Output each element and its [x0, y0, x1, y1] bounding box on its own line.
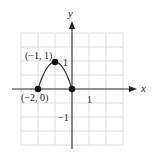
graph-figure: x y 1 1 −1 (−1, 1) (−2, 0): [0, 0, 152, 156]
point-label-neg1-1: (−1, 1): [25, 50, 52, 62]
point-label-neg2-0: (−2, 0): [21, 92, 48, 104]
x-tick-label-1: 1: [87, 94, 92, 105]
x-axis-label: x: [140, 82, 146, 94]
data-point: [69, 86, 75, 92]
y-tick-label-1: 1: [63, 57, 68, 68]
axes: [12, 21, 137, 149]
y-axis-label: y: [67, 7, 73, 19]
x-axis-arrow-icon: [129, 86, 137, 92]
data-point: [52, 59, 58, 65]
y-axis-arrow-icon: [69, 21, 75, 29]
y-tick-label-neg-1: −1: [58, 112, 69, 123]
